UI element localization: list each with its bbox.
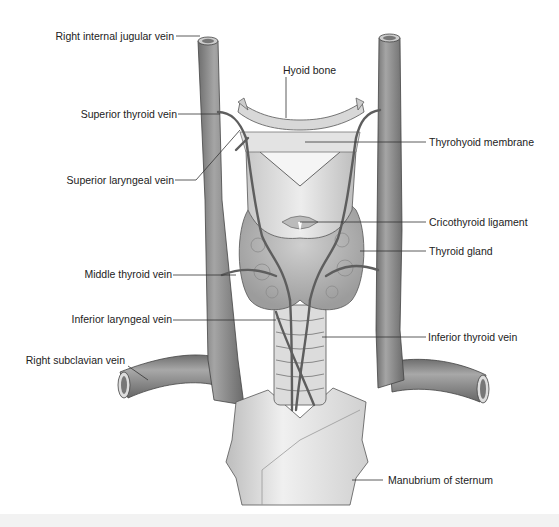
thyroid-cartilage-shape bbox=[246, 150, 356, 238]
label-inferior-thyroid-vein: Inferior thyroid vein bbox=[428, 331, 517, 343]
left-internal-jugular-vein-shape bbox=[376, 34, 404, 388]
label-right-subclavian-vein: Right subclavian vein bbox=[26, 354, 125, 366]
label-cricothyroid-ligament: Cricothyroid ligament bbox=[429, 216, 528, 228]
right-internal-jugular-vein-shape bbox=[198, 37, 244, 405]
trachea-shape bbox=[274, 305, 326, 405]
label-superior-laryngeal-vein: Superior laryngeal vein bbox=[67, 174, 174, 186]
label-thyroid-gland: Thyroid gland bbox=[429, 245, 493, 257]
left-subclavian-vein-shape bbox=[390, 359, 489, 403]
label-hyoid-bone: Hyoid bone bbox=[283, 64, 336, 76]
label-inferior-laryngeal-vein: Inferior laryngeal vein bbox=[72, 313, 172, 325]
label-right-internal-jugular-vein: Right internal jugular vein bbox=[56, 30, 174, 42]
label-middle-thyroid-vein: Middle thyroid vein bbox=[84, 268, 172, 280]
anatomy-figure: Right internal jugular vein Superior thy… bbox=[0, 0, 559, 527]
bottom-margin-band bbox=[0, 514, 559, 527]
label-thyrohyoid-membrane: Thyrohyoid membrane bbox=[429, 136, 534, 148]
hyoid-bone-shape bbox=[238, 98, 364, 152]
thyroid-veins-illustration bbox=[0, 0, 559, 527]
label-manubrium-of-sternum: Manubrium of sternum bbox=[388, 474, 493, 486]
label-superior-thyroid-vein: Superior thyroid vein bbox=[81, 108, 177, 120]
